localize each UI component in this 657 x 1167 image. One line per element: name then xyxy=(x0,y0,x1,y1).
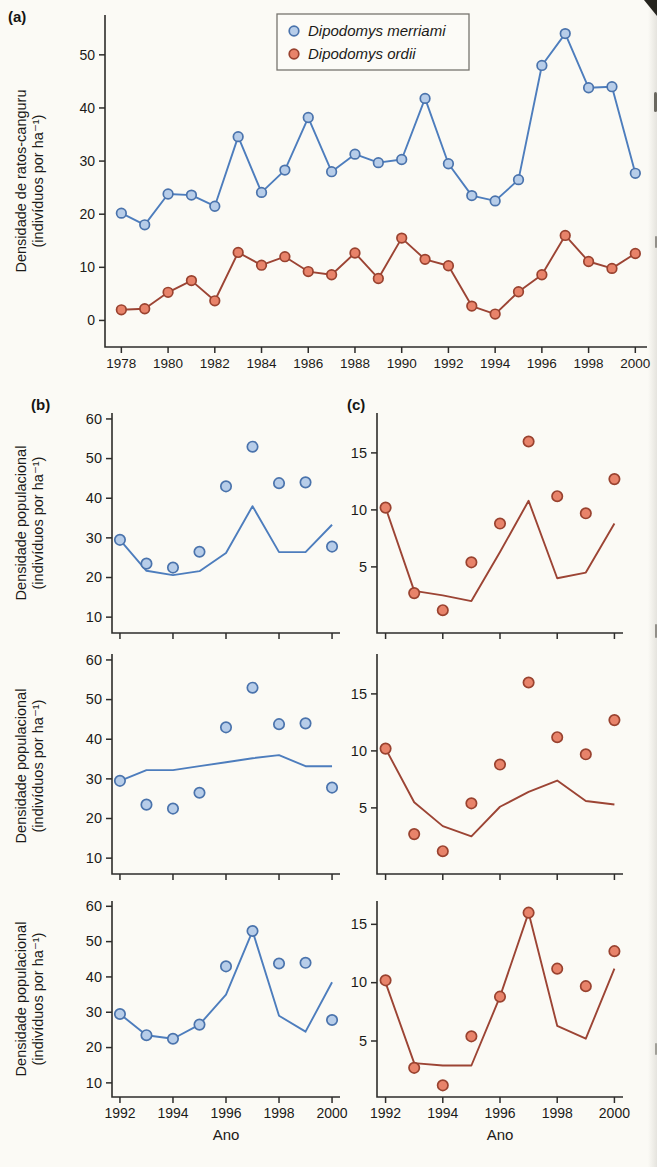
svg-text:1988: 1988 xyxy=(340,356,370,371)
scan-artifact-corner xyxy=(644,0,657,16)
plot-svg: 5101519921994199619982000Ano xyxy=(325,885,657,1153)
svg-text:15: 15 xyxy=(351,916,367,932)
y-axis-label-line: Densidade populacional xyxy=(13,879,30,1119)
scan-edge-shadow xyxy=(648,0,657,1167)
svg-text:20: 20 xyxy=(86,569,102,585)
svg-text:30: 30 xyxy=(86,1004,102,1020)
svg-text:15: 15 xyxy=(351,686,367,702)
panel-b1-y-axis-label: Densidade populacional (indivíduos por h… xyxy=(13,403,47,643)
svg-text:60: 60 xyxy=(86,411,102,427)
svg-text:5: 5 xyxy=(359,1033,367,1049)
svg-text:5: 5 xyxy=(359,559,367,575)
svg-text:1996: 1996 xyxy=(210,1105,241,1121)
y-axis-label-line: (indivíduos por ha⁻¹) xyxy=(30,11,47,351)
svg-text:10: 10 xyxy=(79,259,95,275)
svg-text:20: 20 xyxy=(86,1039,102,1055)
svg-text:50: 50 xyxy=(86,450,102,466)
svg-text:1994: 1994 xyxy=(427,1105,458,1121)
svg-text:1994: 1994 xyxy=(157,1105,188,1121)
chart-panel-c-row1: 51015 xyxy=(325,395,657,647)
plot-svg: 102030405060 xyxy=(55,636,365,884)
plot-svg: 51015 xyxy=(325,636,657,884)
panel-a-y-axis-label: Densidade de ratos-canguru (indivíduos p… xyxy=(13,11,47,351)
svg-text:1982: 1982 xyxy=(200,356,230,371)
svg-text:40: 40 xyxy=(86,969,102,985)
svg-text:10: 10 xyxy=(86,609,102,625)
chart-panel-b-row2: 102030405060 xyxy=(55,636,365,888)
svg-text:1992: 1992 xyxy=(433,356,463,371)
svg-text:40: 40 xyxy=(86,490,102,506)
svg-text:60: 60 xyxy=(86,898,102,914)
svg-text:1978: 1978 xyxy=(106,356,136,371)
svg-text:30: 30 xyxy=(86,771,102,787)
svg-text:1996: 1996 xyxy=(484,1105,515,1121)
svg-text:Dipodomys merriami: Dipodomys merriami xyxy=(308,22,446,39)
svg-text:2000: 2000 xyxy=(620,356,650,371)
svg-text:2000: 2000 xyxy=(599,1105,630,1121)
svg-text:Dipodomys ordii: Dipodomys ordii xyxy=(308,45,416,62)
panel-b2-y-axis-label: Densidade populacional (indivíduos por h… xyxy=(13,646,47,886)
svg-text:50: 50 xyxy=(86,691,102,707)
chart-panel-c-row2: 51015 xyxy=(325,636,657,888)
plot-svg: 102030405060 xyxy=(55,395,365,643)
chart-panel-b-row1: 102030405060 xyxy=(55,395,365,647)
y-axis-label-line: (indivíduos por ha⁻¹) xyxy=(30,879,47,1119)
y-axis-label-line: Densidade populacional xyxy=(13,403,30,643)
svg-text:1998: 1998 xyxy=(542,1105,573,1121)
svg-text:1994: 1994 xyxy=(480,356,511,371)
y-axis-label-line: (indivíduos por ha⁻¹) xyxy=(30,403,47,643)
svg-text:10: 10 xyxy=(351,743,367,759)
svg-text:1990: 1990 xyxy=(387,356,417,371)
chart-panel-a: 0102030405019781980198219841986198819901… xyxy=(55,5,655,391)
plot-svg: 0102030405019781980198219841986198819901… xyxy=(55,5,655,387)
figure-page: (a) Densidade de ratos-canguru (indivídu… xyxy=(0,0,657,1167)
svg-text:1980: 1980 xyxy=(153,356,183,371)
svg-text:0: 0 xyxy=(87,312,95,328)
svg-text:1986: 1986 xyxy=(293,356,323,371)
plot-svg: 10203040506019921994199619982000Ano xyxy=(55,885,365,1153)
svg-text:40: 40 xyxy=(86,731,102,747)
svg-text:Ano: Ano xyxy=(213,1126,240,1143)
svg-text:60: 60 xyxy=(86,652,102,668)
y-axis-label-line: (indivíduos por ha⁻¹) xyxy=(30,646,47,886)
svg-text:10: 10 xyxy=(86,1075,102,1091)
chart-panel-c-row3: 5101519921994199619982000Ano xyxy=(325,885,657,1157)
svg-text:5: 5 xyxy=(359,800,367,816)
plot-svg: 51015 xyxy=(325,395,657,643)
svg-text:40: 40 xyxy=(79,100,95,116)
svg-text:1984: 1984 xyxy=(247,356,278,371)
svg-text:30: 30 xyxy=(86,530,102,546)
svg-text:10: 10 xyxy=(351,974,367,990)
chart-panel-b-row3: 10203040506019921994199619982000Ano xyxy=(55,885,365,1157)
svg-text:1992: 1992 xyxy=(104,1105,135,1121)
svg-text:50: 50 xyxy=(86,933,102,949)
panel-b3-y-axis-label: Densidade populacional (indivíduos por h… xyxy=(13,879,47,1119)
svg-text:1998: 1998 xyxy=(263,1105,294,1121)
svg-text:1996: 1996 xyxy=(527,356,557,371)
svg-text:20: 20 xyxy=(86,810,102,826)
svg-text:20: 20 xyxy=(79,206,95,222)
svg-text:10: 10 xyxy=(86,850,102,866)
svg-text:1998: 1998 xyxy=(574,356,604,371)
svg-text:30: 30 xyxy=(79,153,95,169)
svg-text:15: 15 xyxy=(351,445,367,461)
svg-text:50: 50 xyxy=(79,47,95,63)
svg-text:10: 10 xyxy=(351,502,367,518)
svg-text:Ano: Ano xyxy=(487,1126,514,1143)
y-axis-label-line: Densidade populacional xyxy=(13,646,30,886)
svg-text:1992: 1992 xyxy=(370,1105,401,1121)
y-axis-label-line: Densidade de ratos-canguru xyxy=(13,11,30,351)
